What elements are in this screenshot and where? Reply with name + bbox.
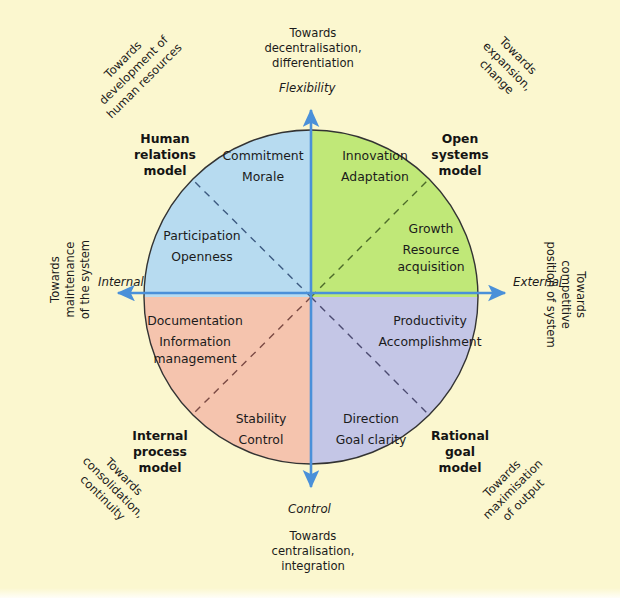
outer-label-top: Towards decentralisation, differentiatio… xyxy=(238,26,388,71)
terms-rational-goal-lower: Direction Goal clarity xyxy=(318,411,424,449)
outer-label-bottom: Towards centralisation, integration xyxy=(238,529,388,574)
model-name-open-systems-line1: Open xyxy=(405,131,515,147)
term-acquisition: acquisition xyxy=(375,259,487,275)
terms-open-systems-lower: Growth Resource acquisition xyxy=(375,221,487,275)
outer-label-left-line1: Towards xyxy=(48,205,63,355)
outer-label-right: Towards competitive position of system xyxy=(542,215,587,375)
model-name-rational-goal-line3: model xyxy=(405,460,515,476)
outer-label-left-line3: of the system xyxy=(79,205,94,355)
terms-human-relations-upper: Commitment Morale xyxy=(203,148,323,186)
outer-label-left-line2: maintenance xyxy=(63,205,78,355)
terms-rational-goal-upper: Productivity Accomplishment xyxy=(363,313,497,351)
axis-label-flexibility: Flexibility xyxy=(279,81,336,97)
terms-open-systems-upper: Innovation Adaptation xyxy=(320,148,430,186)
axis-label-control: Control xyxy=(288,502,331,518)
term-information: Information xyxy=(133,334,257,350)
outer-label-bottom-line2: centralisation, xyxy=(238,544,388,559)
term-innovation: Innovation xyxy=(320,148,430,164)
outer-label-right-line1: Towards xyxy=(573,215,588,375)
outer-label-right-line2: competitive xyxy=(557,215,572,375)
model-name-internal-process-line1: Internal xyxy=(105,428,215,444)
terms-internal-process-upper: Documentation Information management xyxy=(133,313,257,367)
terms-human-relations-lower: Participation Openness xyxy=(144,228,260,266)
outer-label-top-line1: Towards xyxy=(238,26,388,41)
term-documentation: Documentation xyxy=(133,313,257,329)
model-name-internal-process-line3: model xyxy=(105,460,215,476)
terms-internal-process-lower: Stability Control xyxy=(209,411,313,449)
model-name-human-relations-line1: Human xyxy=(110,131,220,147)
term-commitment: Commitment xyxy=(203,148,323,164)
term-adaptation: Adaptation xyxy=(320,169,430,185)
model-name-internal-process-line2: process xyxy=(105,444,215,460)
model-name-internal-process: Internal process model xyxy=(105,428,215,476)
term-openness: Openness xyxy=(144,249,260,265)
outer-label-right-line3: position of system xyxy=(542,215,557,375)
axis-label-internal: Internal xyxy=(98,275,144,291)
term-accomplishment: Accomplishment xyxy=(363,334,497,350)
term-morale: Morale xyxy=(203,169,323,185)
term-control: Control xyxy=(209,432,313,448)
figure-canvas: Towards decentralisation, differentiatio… xyxy=(0,0,620,598)
term-direction: Direction xyxy=(318,411,424,427)
outer-label-bottom-line1: Towards xyxy=(238,529,388,544)
term-productivity: Productivity xyxy=(363,313,497,329)
term-management: management xyxy=(133,351,257,367)
term-participation: Participation xyxy=(144,228,260,244)
term-growth: Growth xyxy=(375,221,487,237)
term-resource: Resource xyxy=(375,242,487,258)
outer-label-left: Towards maintenance of the system xyxy=(48,205,93,355)
outer-label-bottom-line3: integration xyxy=(238,559,388,574)
term-stability: Stability xyxy=(209,411,313,427)
outer-label-top-line2: decentralisation, xyxy=(238,41,388,56)
term-goal-clarity: Goal clarity xyxy=(318,432,424,448)
outer-label-top-line3: differentiation xyxy=(238,56,388,71)
